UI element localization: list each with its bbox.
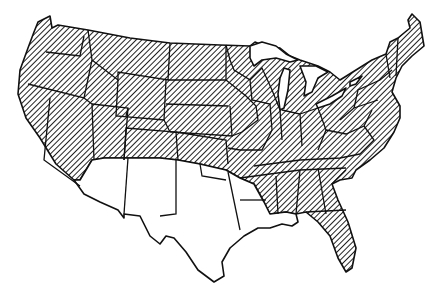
us-map: Contiguous United States — [0, 0, 426, 294]
